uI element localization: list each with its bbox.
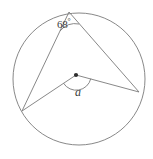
radius-center-to-right <box>76 75 139 92</box>
geometry-figure: 68° a <box>0 0 153 159</box>
inscribed-angle-value: 68 <box>57 18 68 30</box>
chord-top-to-right <box>69 12 139 92</box>
geometry-canvas <box>0 0 153 159</box>
circle-center-point <box>74 73 78 77</box>
inscribed-angle-label: 68° <box>57 19 71 30</box>
main-circle <box>13 13 145 145</box>
degree-symbol: ° <box>68 17 71 26</box>
central-angle-label: a <box>75 86 81 98</box>
